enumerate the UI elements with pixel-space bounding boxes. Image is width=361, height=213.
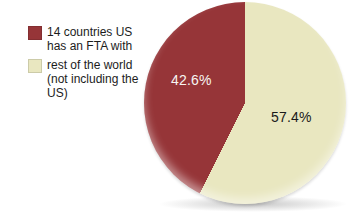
data-label-rest-slice: 57.4% <box>271 109 312 125</box>
legend-item-rest-of-world: rest of the world (not including the US) <box>28 58 172 100</box>
data-label-fta-slice: 42.6% <box>171 72 212 88</box>
legend-label: rest of the world (not including the US) <box>47 58 172 100</box>
pie-chart: 42.6% 57.4% <box>144 2 346 204</box>
legend-label: 14 countries US has an FTA with <box>47 25 172 53</box>
legend-swatch-icon <box>28 59 42 73</box>
legend-item-fta: 14 countries US has an FTA with <box>28 25 172 53</box>
pie-chart-figure: 14 countries US has an FTA with rest of … <box>0 0 361 213</box>
legend-swatch-icon <box>28 26 42 40</box>
chart-legend: 14 countries US has an FTA with rest of … <box>28 25 172 100</box>
